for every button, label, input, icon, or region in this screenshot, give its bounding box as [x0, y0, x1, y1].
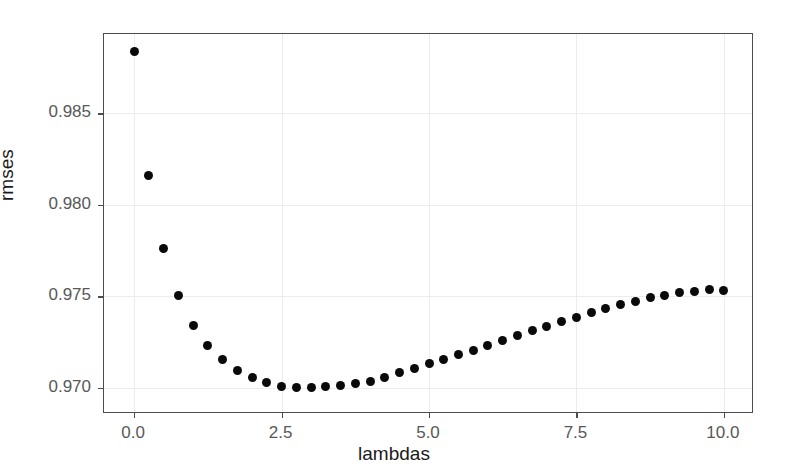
data-point [366, 377, 375, 386]
data-point [498, 336, 507, 345]
gridline-horizontal [104, 113, 752, 114]
data-point [631, 297, 640, 306]
x-tick-label: 5.0 [388, 423, 468, 443]
data-point [542, 322, 551, 331]
gridline-vertical [724, 34, 725, 412]
data-point [248, 373, 257, 382]
x-axis-tick [429, 412, 430, 418]
data-point [307, 383, 316, 392]
data-point [469, 346, 478, 355]
y-tick-label: 0.975 [11, 285, 91, 305]
data-point [321, 382, 330, 391]
data-point [601, 304, 610, 313]
x-tick-label: 2.5 [241, 423, 321, 443]
y-tick-label: 0.970 [11, 377, 91, 397]
data-point [705, 285, 714, 294]
data-point [218, 355, 227, 364]
data-point [159, 244, 168, 253]
gridline-vertical [429, 34, 430, 412]
data-point [439, 355, 448, 364]
data-point [410, 364, 419, 373]
plot-panel [103, 33, 753, 413]
y-tick-label: 0.980 [11, 194, 91, 214]
gridline-vertical [282, 34, 283, 412]
scatter-plot-figure: rmses 0.9700.9750.9800.985 0.02.55.07.51… [0, 0, 788, 476]
data-point [660, 291, 669, 300]
data-point [528, 326, 537, 335]
data-point [395, 368, 404, 377]
x-tick-label: 10.0 [683, 423, 763, 443]
data-point [277, 382, 286, 391]
x-axis-tick [724, 412, 725, 418]
data-point [719, 286, 728, 295]
x-axis-tick [282, 412, 283, 418]
y-tick-label: 0.985 [11, 102, 91, 122]
data-point [690, 287, 699, 296]
data-point [380, 373, 389, 382]
data-point [233, 366, 242, 375]
data-point [513, 331, 522, 340]
y-axis-tick [98, 113, 104, 114]
x-axis-tick [576, 412, 577, 418]
data-point [189, 321, 198, 330]
data-point [203, 341, 212, 350]
x-axis-tick [134, 412, 135, 418]
data-point [130, 47, 139, 56]
gridline-vertical [576, 34, 577, 412]
gridline-horizontal [104, 296, 752, 297]
y-axis-tick [98, 388, 104, 389]
data-point [646, 293, 655, 302]
data-point [616, 300, 625, 309]
gridline-horizontal [104, 205, 752, 206]
y-axis-tick [98, 296, 104, 297]
x-tick-label: 7.5 [535, 423, 615, 443]
data-point [587, 308, 596, 317]
data-point [572, 313, 581, 322]
data-point [336, 381, 345, 390]
data-point [262, 378, 271, 387]
data-point [557, 317, 566, 326]
data-point [425, 359, 434, 368]
gridline-horizontal [104, 388, 752, 389]
data-point [292, 383, 301, 392]
data-point [454, 350, 463, 359]
y-axis-tick [98, 205, 104, 206]
data-point [174, 291, 183, 300]
x-axis-title: lambdas [0, 443, 788, 465]
data-point [144, 171, 153, 180]
data-point [483, 341, 492, 350]
x-tick-label: 0.0 [93, 423, 173, 443]
gridline-vertical [134, 34, 135, 412]
